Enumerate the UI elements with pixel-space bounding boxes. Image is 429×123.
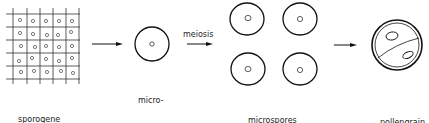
label-line: pollengrain bbox=[380, 118, 425, 123]
pollen-development-diagram bbox=[0, 0, 429, 123]
meiosis-arrow-icon bbox=[187, 42, 213, 46]
pollen-grain bbox=[372, 20, 422, 70]
label-microspores: microspores (tetrade) bbox=[248, 98, 297, 123]
label-line: microspores bbox=[248, 116, 297, 123]
label-microspore-mother-cell: micro- spore mother cell bbox=[138, 78, 167, 123]
label-sporogene-tissue: sporogene tissue bbox=[18, 97, 60, 123]
label-meiosis: meiosis bbox=[183, 30, 213, 39]
arrow-icon bbox=[334, 43, 357, 47]
tetrad-nuclei bbox=[245, 15, 303, 72]
label-pollengrain: pollengrain bbox=[380, 100, 425, 123]
arrow-icon bbox=[92, 42, 123, 46]
tetrad bbox=[230, 3, 317, 85]
sporogene-tissue-grid bbox=[6, 8, 80, 84]
label-line: sporogene bbox=[18, 115, 60, 123]
label-line: micro- bbox=[138, 96, 167, 105]
mother-cell bbox=[135, 27, 169, 61]
